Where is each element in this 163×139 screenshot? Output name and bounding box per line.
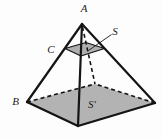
label-vertex-a: A [81,3,88,14]
label-point-s-prime: S′ [88,98,96,109]
label-point-s: S [112,25,118,36]
section-face [65,43,105,57]
label-vertex-c: C [47,44,54,55]
pyramid-cross-section-diagram: A C S B S′ [0,0,163,139]
pyramid-svg [0,0,163,139]
label-vertex-b: B [12,95,19,106]
